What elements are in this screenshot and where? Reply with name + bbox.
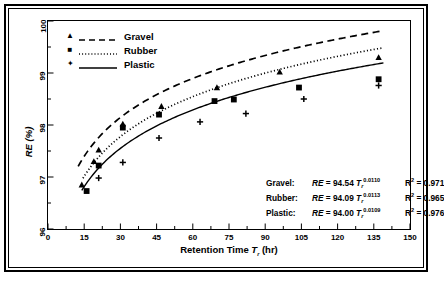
data-point: [296, 85, 302, 91]
equation-series-label: Rubber:: [266, 193, 312, 203]
data-point: [79, 182, 85, 188]
equation-annotations: Gravel:RE = 94.54 Tr0.0110R2 = 0.971Rubb…: [266, 177, 444, 222]
x-axis-label-unit: (hr): [259, 244, 277, 255]
data-point: [212, 98, 218, 104]
legend-item-gravel: ▲ Gravel: [64, 29, 157, 43]
x-tick-label: 150: [403, 233, 416, 242]
data-point: [96, 175, 102, 181]
triangle-marker-icon: ▲: [64, 32, 76, 40]
data-point: [120, 159, 126, 165]
data-point: [197, 119, 203, 125]
dotted-line-sample-icon: [79, 45, 117, 55]
equation-row: Rubber:RE = 94.09 Tr0.0113R2 = 0.965: [266, 192, 444, 207]
data-point: [96, 163, 102, 169]
data-point: [158, 103, 164, 109]
x-tick-label: 15: [80, 233, 89, 242]
data-point: [376, 82, 382, 88]
equation-expression: RE = 94.54 Tr0.0110: [312, 177, 405, 189]
equation-series-label: Plastic:: [266, 208, 312, 218]
legend-item-plastic: ✦ Plastic: [64, 57, 157, 71]
x-tick-label: 105: [295, 233, 308, 242]
data-point: [84, 188, 90, 194]
data-point: [301, 96, 307, 102]
x-tick-label: 0: [46, 233, 50, 242]
legend-label-rubber: Rubber: [124, 45, 157, 56]
data-point: [375, 54, 381, 60]
y-axis-label-unit: (%): [23, 127, 34, 144]
square-marker-icon: ■: [64, 46, 76, 54]
plus-marker-icon: ✦: [64, 60, 76, 68]
equation-r-squared: R2 = 0.976: [405, 207, 444, 218]
y-axis-label: RE (%): [23, 127, 34, 158]
data-point: [120, 125, 126, 131]
x-tick-label: 30: [116, 233, 125, 242]
legend-item-rubber: ■ Rubber: [64, 43, 157, 57]
data-point: [95, 147, 101, 153]
data-point: [376, 76, 382, 82]
legend-label-gravel: Gravel: [124, 31, 154, 42]
data-point: [156, 112, 162, 118]
data-point: [156, 135, 162, 141]
y-tick-label: 99: [39, 72, 48, 81]
equation-series-label: Gravel:: [266, 178, 312, 188]
x-tick-label: 120: [331, 233, 344, 242]
x-axis-label-main: Retention Time: [180, 244, 251, 255]
equation-r-squared: R2 = 0.971: [405, 177, 444, 188]
legend-label-plastic: Plastic: [124, 59, 155, 70]
data-points-gravel: [79, 54, 382, 187]
x-tick-label: 135: [367, 233, 380, 242]
solid-line-sample-icon: [79, 59, 117, 69]
x-tick-label: 75: [225, 233, 234, 242]
y-tick-label: 97: [39, 176, 48, 185]
dashed-line-sample-icon: [79, 31, 117, 41]
equation-row: Plastic:RE = 94.00 Tr0.0109R2 = 0.976: [266, 207, 444, 222]
x-tick-label: 45: [152, 233, 161, 242]
fit-curve-plastic: [82, 63, 384, 190]
plot-area: ▲ Gravel ■ Rubber ✦ Plastic: [47, 20, 411, 230]
x-tick-label: 90: [261, 233, 270, 242]
y-tick-label: 98: [39, 124, 48, 133]
x-tick-label: 60: [188, 233, 197, 242]
data-point: [243, 110, 249, 116]
data-points-plastic: [96, 82, 382, 181]
equation-expression: RE = 94.09 Tr0.0113: [312, 192, 405, 204]
data-point: [231, 97, 237, 103]
equation-row: Gravel:RE = 94.54 Tr0.0110R2 = 0.971: [266, 177, 444, 192]
x-axis-label: Retention Time Tr (hr): [47, 244, 411, 257]
y-tick-label: 100: [39, 20, 48, 33]
legend: ▲ Gravel ■ Rubber ✦ Plastic: [64, 29, 157, 71]
y-axis-label-main: RE: [23, 144, 34, 157]
equation-expression: RE = 94.00 Tr0.0109: [312, 207, 405, 219]
equation-r-squared: R2 = 0.965: [405, 192, 444, 203]
